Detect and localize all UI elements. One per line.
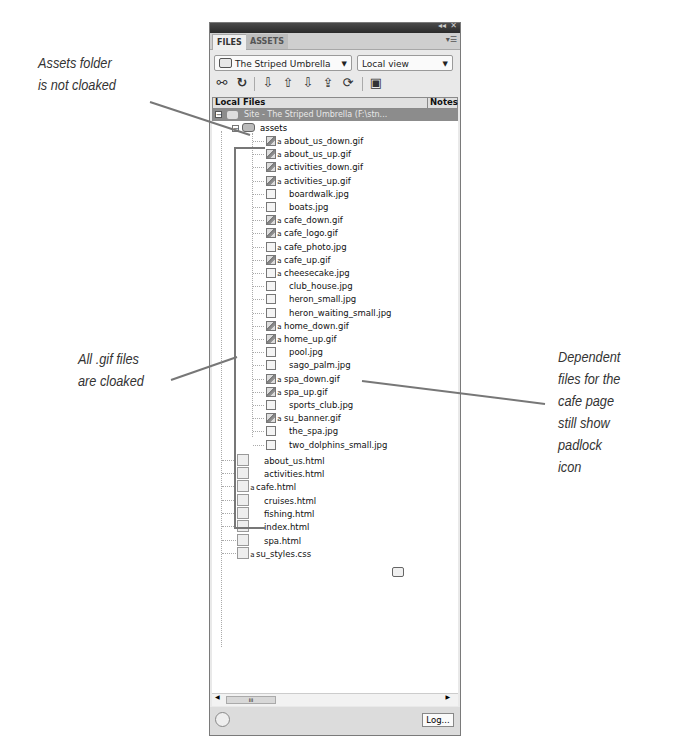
file-row[interactable]: the_spa.jpg <box>266 425 338 438</box>
image-file-icon <box>266 294 276 304</box>
log-button[interactable]: Log... <box>422 713 454 727</box>
html-file-icon <box>237 480 249 492</box>
tree-line <box>221 131 223 647</box>
file-row[interactable]: boats.jpg <box>266 201 328 214</box>
site-root-row[interactable]: − Site - The Striped Umbrella (F:\stn... <box>212 109 458 121</box>
refresh-icon[interactable]: ↻ <box>234 75 250 91</box>
tab-assets[interactable]: ASSETS <box>246 34 288 49</box>
tree-line <box>222 500 236 502</box>
close-icon[interactable]: ✕ <box>450 21 457 30</box>
image-file-icon <box>266 281 276 291</box>
file-row[interactable]: aactivities_down.gif <box>266 161 363 174</box>
padlock-icon: a <box>276 374 283 387</box>
check-in-icon[interactable]: ⇪ <box>320 75 336 91</box>
connect-icon[interactable]: ⚯ <box>214 75 230 91</box>
file-row[interactable]: club_house.jpg <box>266 280 353 293</box>
file-row[interactable]: aabout_us_down.gif <box>266 135 363 148</box>
file-row[interactable]: acafe_down.gif <box>266 214 343 227</box>
file-row[interactable]: aspa_up.gif <box>266 386 328 399</box>
file-row[interactable]: boardwalk.jpg <box>266 188 349 201</box>
put-files-icon[interactable]: ⇧ <box>280 75 296 91</box>
file-row[interactable]: sports_club.jpg <box>266 399 353 412</box>
file-row[interactable]: pool.jpg <box>266 346 323 359</box>
padlock-icon: a <box>276 215 283 228</box>
file-row[interactable]: acafe_logo.gif <box>266 227 338 240</box>
file-row[interactable]: index.html <box>237 520 309 533</box>
assets-folder-label: assets <box>260 123 287 133</box>
tab-files[interactable]: FILES <box>212 34 247 50</box>
chevron-down-icon: ▼ <box>443 56 448 72</box>
tree-line <box>253 181 264 183</box>
scroll-left-icon[interactable]: ◀ <box>215 693 220 700</box>
collapse-toggle[interactable]: − <box>232 125 239 132</box>
cloaked-image-file-icon <box>266 387 276 397</box>
expand-icon[interactable]: ▣ <box>368 75 384 91</box>
file-row[interactable]: aspa_down.gif <box>266 373 340 386</box>
file-row[interactable]: acafe.html <box>237 480 296 493</box>
file-name: sago_palm.jpg <box>289 360 351 370</box>
tree-line <box>222 473 236 475</box>
chevron-down-icon: ▼ <box>342 56 347 72</box>
file-row[interactable]: spa.html <box>237 534 301 547</box>
padlock-icon: a <box>276 242 283 255</box>
panel-toolbar: ⚯ ↻ ⇩ ⇧ ⇩ ⇪ ⟳ ▣ <box>214 75 456 93</box>
file-name: club_house.jpg <box>289 281 353 291</box>
tree-line <box>253 220 264 222</box>
file-row[interactable]: acheesecake.jpg <box>266 267 350 280</box>
image-file-icon <box>266 440 276 450</box>
tree-line <box>253 260 264 262</box>
tree-line <box>253 286 264 288</box>
panel-menu-icon[interactable]: ▾☰ <box>446 35 457 44</box>
image-file-icon <box>266 189 276 199</box>
file-row[interactable]: heron_waiting_small.jpg <box>266 307 392 320</box>
file-name: spa_down.gif <box>284 374 340 384</box>
file-name: su_styles.css <box>256 549 311 559</box>
get-files-icon[interactable]: ⇩ <box>260 75 276 91</box>
file-row[interactable]: cruises.html <box>237 494 316 507</box>
padlock-icon: a <box>276 268 283 281</box>
column-notes[interactable]: Notes <box>427 97 457 108</box>
file-row[interactable]: asu_styles.css <box>237 547 311 560</box>
scroll-right-icon[interactable]: ▶ <box>445 693 450 700</box>
file-row[interactable]: aactivities_up.gif <box>266 175 351 188</box>
check-out-icon[interactable]: ⇩ <box>300 75 316 91</box>
image-file-icon <box>266 426 276 436</box>
note-icon[interactable] <box>392 567 404 577</box>
cloaked-image-file-icon <box>266 321 276 331</box>
file-row[interactable]: activities.html <box>237 467 324 480</box>
padlock-icon: a <box>276 176 283 189</box>
callout-dependent-files: Dependent files for the cafe page still … <box>558 346 620 478</box>
file-row[interactable]: fishing.html <box>237 507 314 520</box>
column-local-files[interactable]: Local Files <box>215 97 265 107</box>
horizontal-scrollbar[interactable]: ◀ III ▶ <box>212 693 458 706</box>
scrollbar-thumb[interactable]: III <box>226 696 276 704</box>
file-name: home_up.gif <box>284 334 337 344</box>
file-row[interactable]: aabout_us_up.gif <box>266 148 351 161</box>
tree-line <box>222 513 236 515</box>
callout-line: is not cloaked <box>38 74 116 96</box>
file-name: cafe_up.gif <box>284 255 331 265</box>
tree-line <box>222 460 236 462</box>
synchronize-icon[interactable]: ⟳ <box>340 75 356 91</box>
cloaked-image-file-icon <box>266 136 276 146</box>
view-select[interactable]: Local view ▼ <box>357 55 453 71</box>
file-name: cafe_photo.jpg <box>284 242 347 252</box>
file-row[interactable]: sago_palm.jpg <box>266 359 351 372</box>
image-file-icon <box>266 347 276 357</box>
cloaked-image-file-icon <box>266 149 276 159</box>
site-select[interactable]: The Striped Umbrella ▼ <box>214 55 352 71</box>
file-row[interactable]: asu_banner.gif <box>266 412 341 425</box>
file-row[interactable]: two_dolphins_small.jpg <box>266 439 387 452</box>
file-name: index.html <box>264 522 309 532</box>
collapse-toggle[interactable]: − <box>215 111 222 118</box>
file-row[interactable]: ahome_up.gif <box>266 333 337 346</box>
assets-folder-row[interactable]: −assets <box>232 122 287 135</box>
file-row[interactable]: acafe_photo.jpg <box>266 241 347 254</box>
folder-icon <box>219 58 232 68</box>
file-row[interactable]: about_us.html <box>237 454 325 467</box>
file-row[interactable]: heron_small.jpg <box>266 293 356 306</box>
collapse-icon[interactable]: ◂◂ <box>438 21 446 30</box>
tree-line <box>253 365 264 367</box>
file-row[interactable]: ahome_down.gif <box>266 320 349 333</box>
file-row[interactable]: acafe_up.gif <box>266 254 331 267</box>
